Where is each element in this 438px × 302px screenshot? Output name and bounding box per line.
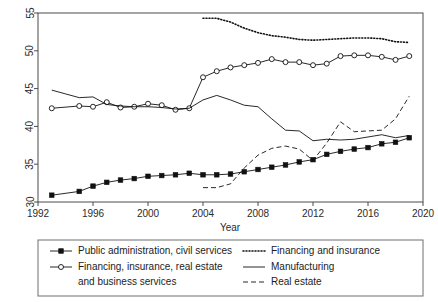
legend-label: Manufacturing xyxy=(271,261,334,272)
x-tick-label: 2016 xyxy=(357,208,380,219)
x-tick-label: 2020 xyxy=(412,208,435,219)
data-point-marker xyxy=(338,54,343,59)
legend-entry[interactable]: and business services xyxy=(78,276,176,287)
x-tick-label: 2012 xyxy=(302,208,325,219)
x-tick-label: 2008 xyxy=(247,208,270,219)
data-point-marker xyxy=(311,63,316,68)
data-point-marker xyxy=(297,160,302,165)
x-axis-title: Year xyxy=(220,222,241,233)
data-point-marker xyxy=(324,152,329,157)
y-tick-label: 45 xyxy=(25,83,36,95)
data-point-marker xyxy=(283,60,288,65)
legend-label: Real estate xyxy=(271,276,322,287)
x-tick-label: 2004 xyxy=(192,208,215,219)
data-point-marker xyxy=(297,60,302,65)
y-tick-label: 50 xyxy=(25,45,36,57)
data-point-marker xyxy=(393,57,398,62)
data-point-marker xyxy=(269,165,274,170)
data-point-marker xyxy=(269,57,274,62)
data-point-marker xyxy=(173,172,178,177)
data-point-marker xyxy=(49,106,54,111)
data-point-marker xyxy=(146,174,151,179)
data-point-marker xyxy=(214,172,219,177)
data-point-marker xyxy=(49,193,54,198)
data-point-marker xyxy=(201,75,206,80)
data-point-marker xyxy=(366,53,371,58)
data-point-marker xyxy=(77,189,82,194)
data-point-marker xyxy=(379,54,384,59)
data-point-marker xyxy=(256,167,261,172)
data-point-marker xyxy=(146,101,151,106)
x-tick-label: 2000 xyxy=(137,208,160,219)
legend-circle-marker xyxy=(59,265,64,270)
legend-label: Financing, insurance, real estate xyxy=(78,261,223,272)
data-point-marker xyxy=(77,103,82,108)
data-point-marker xyxy=(283,163,288,168)
data-point-marker xyxy=(366,145,371,150)
legend-square-marker xyxy=(59,249,64,254)
data-point-marker xyxy=(159,173,164,178)
y-tick-label: 55 xyxy=(25,7,36,19)
data-point-marker xyxy=(187,171,192,176)
data-point-marker xyxy=(242,169,247,174)
data-point-marker xyxy=(91,184,96,189)
data-point-marker xyxy=(338,149,343,154)
chart-figure: 303540455055 199219962000200420082012201… xyxy=(0,0,438,302)
data-point-marker xyxy=(393,140,398,145)
data-point-marker xyxy=(173,107,178,112)
data-point-marker xyxy=(132,176,137,181)
data-point-marker xyxy=(407,54,412,59)
data-point-marker xyxy=(214,69,219,74)
legend-label: and business services xyxy=(78,276,176,287)
data-point-marker xyxy=(118,178,123,183)
x-tick-label: 1992 xyxy=(27,208,50,219)
data-point-marker xyxy=(379,141,384,146)
data-point-marker xyxy=(201,172,206,177)
data-point-marker xyxy=(104,180,109,185)
legend-entry[interactable]: Public administration, civil services xyxy=(50,245,232,256)
y-tick-label: 35 xyxy=(25,158,36,170)
data-point-marker xyxy=(228,65,233,70)
y-tick-label: 40 xyxy=(25,120,36,132)
legend-label: Public administration, civil services xyxy=(78,245,232,256)
data-point-marker xyxy=(256,60,261,65)
chart-svg: 303540455055 199219962000200420082012201… xyxy=(0,0,438,302)
data-point-marker xyxy=(242,63,247,68)
data-point-marker xyxy=(324,61,329,66)
data-point-marker xyxy=(352,53,357,58)
y-tick-label: 30 xyxy=(25,196,36,208)
x-tick-label: 1996 xyxy=(82,208,105,219)
data-point-marker xyxy=(228,172,233,177)
data-point-marker xyxy=(352,147,357,152)
legend-label: Financing and insurance xyxy=(271,245,380,256)
data-point-marker xyxy=(91,104,96,109)
